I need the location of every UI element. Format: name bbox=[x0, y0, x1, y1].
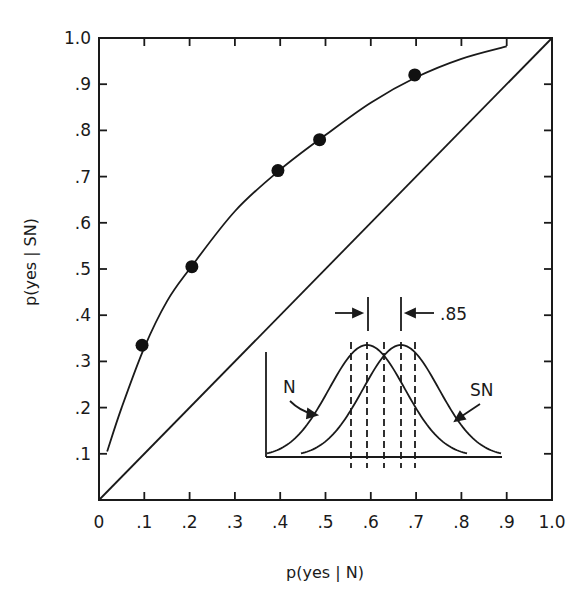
y-tick-label: .6 bbox=[75, 213, 91, 233]
data-point bbox=[185, 260, 198, 273]
x-tick-label: .2 bbox=[181, 512, 197, 532]
signal-pointer-arrow-icon bbox=[455, 412, 465, 421]
x-tick-label: 1.0 bbox=[538, 512, 565, 532]
y-tick-label: .9 bbox=[75, 74, 91, 94]
y-tick-label: .1 bbox=[75, 444, 91, 464]
y-tick-label: .5 bbox=[75, 259, 91, 279]
data-point bbox=[271, 164, 284, 177]
x-axis-label: p(yes | N) bbox=[286, 563, 364, 582]
y-tick-label: .4 bbox=[75, 305, 91, 325]
x-tick-label: .4 bbox=[272, 512, 288, 532]
inset-label-n: N bbox=[283, 377, 296, 397]
x-tick-label: .7 bbox=[408, 512, 424, 532]
x-tick-label: .9 bbox=[499, 512, 515, 532]
x-tick-label: .6 bbox=[363, 512, 379, 532]
left-arrow-icon bbox=[406, 309, 415, 317]
x-tick-label: .8 bbox=[453, 512, 469, 532]
x-tick-label: .5 bbox=[317, 512, 333, 532]
data-point bbox=[313, 133, 326, 146]
y-axis-label: p(yes | SN) bbox=[21, 218, 40, 306]
inset-label-separation: .85 bbox=[440, 304, 467, 324]
x-tick-labels: 0.1.2.3.4.5.6.7.8.91.0 bbox=[94, 512, 566, 532]
y-tick-label: .8 bbox=[75, 120, 91, 140]
x-tick-label: .3 bbox=[227, 512, 243, 532]
inset-label-sn: SN bbox=[470, 380, 494, 400]
y-tick-label: 1.0 bbox=[64, 28, 91, 48]
right-arrow-icon bbox=[353, 309, 362, 317]
data-point bbox=[136, 339, 149, 352]
roc-chart: 0.1.2.3.4.5.6.7.8.91.0 .1.2.3.4.5.6.7.8.… bbox=[0, 0, 587, 609]
y-tick-label: .7 bbox=[75, 167, 91, 187]
data-point bbox=[408, 68, 421, 81]
noise-pointer-arrow-icon bbox=[307, 409, 317, 418]
x-tick-label: .1 bbox=[136, 512, 152, 532]
data-points bbox=[136, 68, 422, 351]
y-tick-label: .2 bbox=[75, 398, 91, 418]
y-tick-labels: .1.2.3.4.5.6.7.8.91.0 bbox=[64, 28, 91, 464]
roc-fitted-curve bbox=[107, 46, 507, 451]
chance-diagonal-line bbox=[99, 38, 552, 500]
y-tick-label: .3 bbox=[75, 351, 91, 371]
x-tick-label: 0 bbox=[94, 512, 105, 532]
